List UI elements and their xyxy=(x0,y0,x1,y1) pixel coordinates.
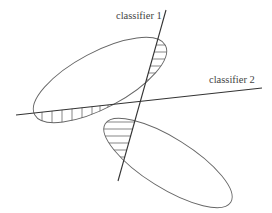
classifier-2-label: classifier 2 xyxy=(209,74,255,85)
classifier-1-label: classifier 1 xyxy=(116,10,162,21)
lower-class-ellipse xyxy=(92,103,244,213)
classifier-2-line xyxy=(16,88,262,115)
hatch-lower-left xyxy=(95,122,145,157)
hatch-upper-right xyxy=(140,45,180,80)
upper-class-ellipse xyxy=(22,21,179,140)
classifier-1-line xyxy=(118,10,166,181)
classifier-diagram: classifier 1 classifier 2 xyxy=(0,0,272,213)
